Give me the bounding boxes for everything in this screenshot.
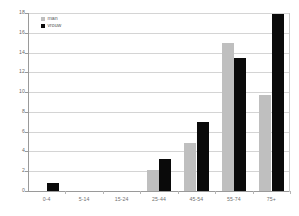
x-axis-tick-mark [140,191,141,194]
y-axis-tick-label: 14 [3,50,25,55]
x-axis-tick-mark [178,191,179,194]
x-axis-line [28,191,290,192]
bar-vrouw-0-4[interactable] [47,183,59,191]
bar-vrouw-25-44[interactable] [159,159,171,191]
bar-group [28,13,65,191]
x-axis-tick-label: 75+ [267,197,276,202]
x-axis-tick-label: 25-44 [152,197,166,202]
x-axis-tick-mark [103,191,104,194]
x-axis-tick-label: 55-74 [227,197,241,202]
bar-vrouw-45-54[interactable] [197,122,209,191]
bar-group [140,13,177,191]
bars-layer [28,13,290,191]
bar-vrouw-75+[interactable] [272,14,284,191]
bar-vrouw-55-74[interactable] [234,58,246,192]
x-axis-tick-mark [290,191,291,194]
x-axis-tick-mark [215,191,216,194]
legend-swatch-icon [41,17,45,21]
legend-swatch-icon [41,24,45,28]
x-axis-tick-label: 15-24 [115,197,129,202]
legend-label: vrouw [48,22,62,29]
bar-man-25-44[interactable] [147,170,159,191]
y-axis-tick-label: 0 [3,188,25,193]
x-axis-tick-label: 5-14 [79,197,90,202]
legend-label: man [48,15,58,22]
legend-item-vrouw[interactable]: vrouw [41,22,61,29]
x-axis-tick-label: 45-54 [190,197,204,202]
y-axis-tick-label: 12 [3,70,25,75]
bar-man-75+[interactable] [259,95,271,191]
y-axis-tick-label: 16 [3,30,25,35]
legend-item-man[interactable]: man [41,15,61,22]
y-axis-tick-label: 2 [3,169,25,174]
bar-group [215,13,252,191]
bar-group [253,13,290,191]
y-axis-tick-label: 4 [3,149,25,154]
y-axis-labels: 024681012141618 [0,13,25,192]
x-axis-tick-mark [253,191,254,194]
y-axis-tick-label: 8 [3,109,25,114]
bar-group [65,13,102,191]
y-axis-tick-label: 18 [3,10,25,15]
bar-chart: 024681012141618 0-45-1415-2425-4445-5455… [0,0,299,216]
chart-legend: manvrouw [41,15,61,29]
x-axis-tick-label: 0-4 [43,197,51,202]
bar-man-45-54[interactable] [184,143,196,191]
bar-group [103,13,140,191]
y-axis-tick-label: 10 [3,90,25,95]
y-axis-tick-label: 6 [3,129,25,134]
bar-man-55-74[interactable] [222,43,234,191]
x-axis-tick-mark [65,191,66,194]
bar-group [178,13,215,191]
